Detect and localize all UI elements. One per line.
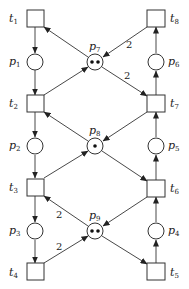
arc-p9-t3 <box>44 196 88 226</box>
label-p2: p2 <box>9 139 21 153</box>
place-p5 <box>148 138 164 154</box>
petri-net-diagram: t1 t2 t3 t4 t5 t6 t7 t8 p1 p2 p3 p4 p5 p… <box>0 0 189 289</box>
transition-t2 <box>27 95 44 112</box>
label-p3: p3 <box>9 224 21 238</box>
token <box>96 60 100 64</box>
place-p1 <box>27 54 43 70</box>
place-p3 <box>27 223 43 239</box>
token <box>90 60 94 64</box>
arc-p7-t1 <box>44 27 88 57</box>
label-p7: p7 <box>89 40 101 54</box>
arc-t3-p8 <box>44 151 88 178</box>
transition-t3 <box>27 179 44 196</box>
label-t7: t7 <box>170 97 179 111</box>
label-t5: t5 <box>170 266 179 280</box>
label-p5: p5 <box>168 139 180 153</box>
arc-p8-t6 <box>102 151 147 181</box>
weight-label-t4-p9: 2 <box>56 241 62 252</box>
arc-t6-p9 <box>103 197 147 226</box>
label-t4: t4 <box>9 266 18 280</box>
label-t3: t3 <box>9 181 18 195</box>
weight-label-p7-t7: 2 <box>124 70 130 81</box>
transition-t5 <box>147 263 165 280</box>
transition-t1 <box>27 10 44 27</box>
place-p9 <box>87 223 103 239</box>
token <box>90 229 94 233</box>
label-p4: p4 <box>168 224 180 238</box>
arc-t4-p9 <box>44 236 88 263</box>
label-t2: t2 <box>9 97 18 111</box>
label-t6: t6 <box>170 182 179 196</box>
token <box>93 144 97 148</box>
arc-p8-t2 <box>44 112 88 141</box>
arc-p9-t5 <box>102 236 147 264</box>
label-p1: p1 <box>9 55 21 69</box>
arc-t8-p7 <box>103 27 147 57</box>
arc-t2-p7 <box>44 67 88 95</box>
label-t1: t1 <box>9 12 18 26</box>
place-p2 <box>27 138 43 154</box>
label-t8: t8 <box>170 12 179 26</box>
weight-label-t8-p7: 2 <box>126 39 132 50</box>
transition-t8 <box>147 10 165 27</box>
arc-t7-p8 <box>103 112 147 141</box>
label-p9: p9 <box>89 209 101 223</box>
place-p6 <box>148 54 164 70</box>
place-p7 <box>87 54 103 70</box>
label-p6: p6 <box>168 55 180 69</box>
weight-label-p9-t3: 2 <box>56 209 62 220</box>
transition-t6 <box>147 180 165 197</box>
token <box>96 229 100 233</box>
transition-t4 <box>27 263 44 280</box>
label-p8: p8 <box>89 124 101 138</box>
transition-t7 <box>147 95 165 112</box>
place-p4 <box>148 223 164 239</box>
